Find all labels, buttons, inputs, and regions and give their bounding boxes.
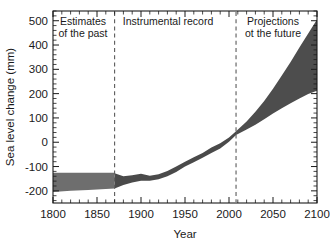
x-tick-label-2100: 2100 xyxy=(304,208,330,220)
y-tick-label-100: 100 xyxy=(29,112,48,124)
x-tick-label-1850: 1850 xyxy=(84,208,110,220)
y-tick-label-0: 0 xyxy=(42,136,48,148)
y-tick-label-500: 500 xyxy=(29,15,48,27)
sea-level-chart-figure: 1800185019001950200020502100 -200-100010… xyxy=(0,0,330,247)
x-tick-label-1800: 1800 xyxy=(40,208,66,220)
x-tick-label-1950: 1950 xyxy=(172,208,198,220)
y-tick-label-300: 300 xyxy=(29,63,48,75)
y-tick-label-200: 200 xyxy=(29,88,48,100)
region-label-projections-line1: Projections xyxy=(247,15,299,27)
y-axis-tick-labels: -200-1000100200300400500 xyxy=(25,15,48,197)
y-tick-label--200: -200 xyxy=(25,185,48,197)
region-label-instrumental-line1: Instrumental record xyxy=(123,15,214,27)
y-axis-title: Sea level change (mm) xyxy=(4,48,16,166)
x-axis-tick-labels: 1800185019001950200020502100 xyxy=(40,208,330,220)
y-tick-label--100: -100 xyxy=(25,161,48,173)
x-tick-label-1900: 1900 xyxy=(128,208,154,220)
x-tick-label-2050: 2050 xyxy=(260,208,286,220)
y-tick-label-400: 400 xyxy=(29,39,48,51)
region-label-past-line1: Estimates xyxy=(60,15,106,27)
chart-canvas: 1800185019001950200020502100 -200-100010… xyxy=(0,0,330,247)
region-label-past-line2: of the past xyxy=(58,27,107,39)
region-label-projections-line2: ot the future xyxy=(245,27,301,39)
x-tick-label-2000: 2000 xyxy=(216,208,242,220)
x-axis-title: Year xyxy=(173,228,196,240)
